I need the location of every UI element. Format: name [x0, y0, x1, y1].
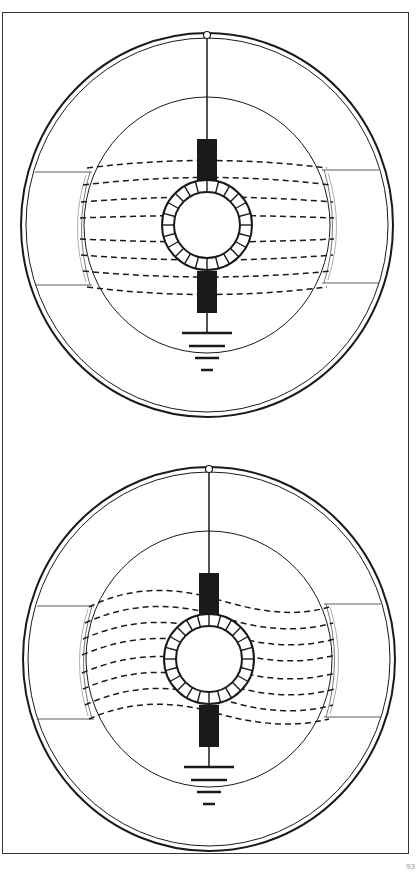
armature-ring	[162, 180, 252, 270]
diagram-canvas	[0, 0, 419, 873]
bottom-panel	[23, 466, 395, 852]
top-panel	[21, 32, 393, 418]
page-number: 93	[406, 862, 415, 871]
armature-ring	[164, 614, 254, 704]
